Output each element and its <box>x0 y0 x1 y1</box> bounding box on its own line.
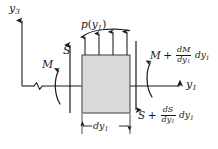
right-shear-operator: + <box>148 110 157 121</box>
axis-label-y3: y3 <box>9 3 20 15</box>
left-moment-label: M <box>42 59 53 70</box>
figure-canvas: y3 y1 p(y1) M S M + dM dy1 dy1 S + dS dy… <box>0 0 218 149</box>
axis-break-symbol <box>34 83 42 90</box>
distributed-load-group <box>84 29 130 55</box>
right-shear-numerator: dS <box>162 106 175 115</box>
right-moment-numerator: dM <box>176 46 191 55</box>
distributed-load-label: p(y1) <box>81 19 106 32</box>
right-moment-fraction: dM dy1 <box>176 46 191 65</box>
right-moment-arrow <box>147 63 152 97</box>
right-shear-label: S + dS dy1 dy1 <box>138 106 194 125</box>
right-shear-term: S <box>138 110 145 121</box>
right-moment-label: M + dM dy1 dy1 <box>150 46 210 65</box>
left-shear-label: S <box>63 45 71 56</box>
left-moment-arrow <box>55 71 60 105</box>
dimension-label: dy1 <box>93 121 108 132</box>
right-shear-denominator: dy1 <box>161 116 176 125</box>
right-shear-differential: dy1 <box>179 111 194 121</box>
right-moment-term: M <box>150 50 161 61</box>
right-shear-fraction: dS dy1 <box>161 106 176 125</box>
beam-element-box <box>82 55 130 113</box>
right-moment-differential: dy1 <box>195 51 210 61</box>
right-moment-operator: + <box>163 50 172 61</box>
axis-label-y1: y1 <box>186 79 197 91</box>
right-moment-denominator: dy1 <box>176 56 191 65</box>
beam-element-diagram <box>0 0 218 149</box>
